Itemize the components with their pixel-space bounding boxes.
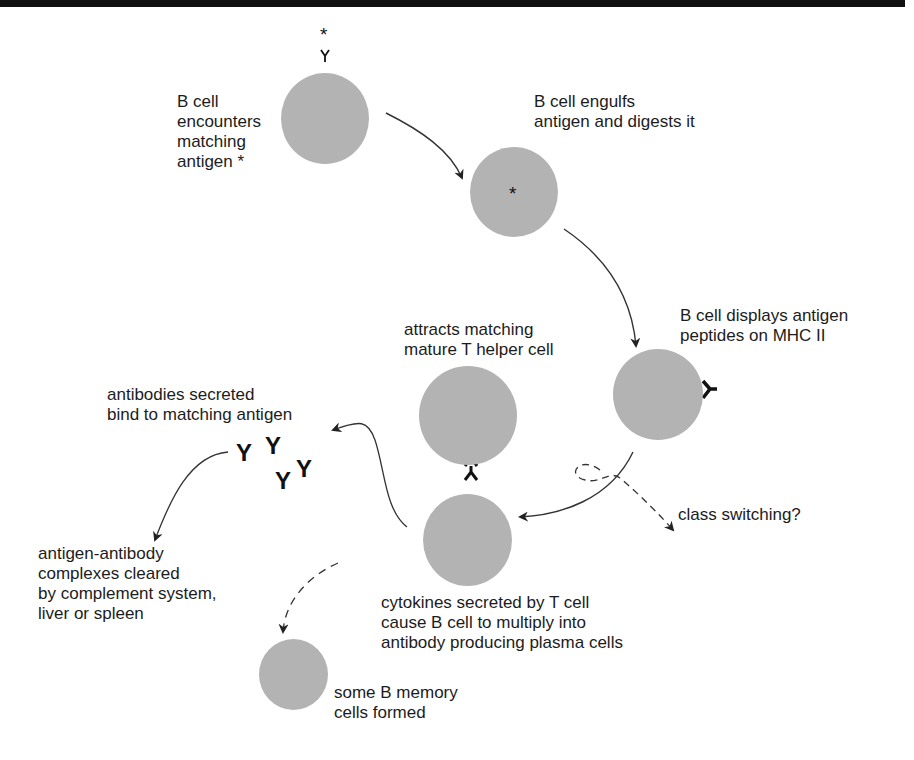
label-b-cell-display: B cell displays antigen peptides on MHC … bbox=[680, 306, 848, 346]
engulfed-antigen-icon: * bbox=[509, 183, 516, 205]
label-b-cell-engulf: B cell engulfs antigen and digests it bbox=[534, 92, 695, 132]
arrow-engulf-to-display bbox=[564, 229, 636, 346]
antibody-icon: Y bbox=[275, 467, 291, 495]
antibody-icon: Y bbox=[296, 455, 312, 483]
t-helper-cell bbox=[419, 366, 517, 465]
antigen-icon: * bbox=[320, 24, 327, 46]
label-class-switching: class switching? bbox=[678, 505, 801, 525]
mhc-receptor bbox=[703, 381, 717, 398]
arrow-plasma-to-antibodies bbox=[333, 423, 407, 527]
label-t-helper: attracts matching mature T helper cell bbox=[404, 320, 554, 360]
b-cell-encounter bbox=[281, 73, 369, 164]
label-antibodies: antibodies secreted bind to matching ant… bbox=[107, 385, 292, 425]
b-cell-activation-diagram: * * Y Y Y Y B cell encounters matching a… bbox=[0, 0, 914, 760]
arrow-encounter-to-engulf bbox=[386, 113, 462, 178]
b-cell-display bbox=[613, 349, 703, 440]
tcr-bond-lower bbox=[465, 466, 477, 480]
antibody-icon: Y bbox=[265, 432, 281, 460]
label-plasma: cytokines secreted by T cell cause B cel… bbox=[381, 593, 623, 653]
label-memory: some B memory cells formed bbox=[334, 683, 458, 723]
antibody-icon: Y bbox=[236, 439, 252, 467]
memory-b-cell bbox=[259, 639, 328, 710]
arrow-plasma-to-memory bbox=[283, 563, 338, 632]
arrow-antibodies-to-complexes bbox=[155, 452, 228, 540]
plasma-b-cell bbox=[423, 494, 512, 586]
bcr-receptor bbox=[321, 50, 329, 62]
arrow-display-to-plasma bbox=[520, 452, 633, 517]
label-complexes: antigen-antibody complexes cleared by co… bbox=[38, 544, 217, 624]
label-b-cell-encounter: B cell encounters matching antigen * bbox=[177, 92, 261, 172]
